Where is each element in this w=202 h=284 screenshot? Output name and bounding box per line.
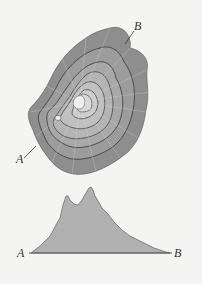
map-label-a: A (15, 152, 24, 166)
secondary-peak (55, 116, 61, 121)
profile-shape (31, 187, 170, 253)
profile-label-b: B (174, 246, 182, 260)
contour-map: B A (15, 19, 148, 175)
leader-a (24, 146, 36, 158)
topographic-diagram: B A A B (0, 0, 202, 284)
map-label-b: B (134, 19, 142, 33)
profile-section: A B (16, 187, 182, 260)
profile-label-a: A (16, 246, 25, 260)
